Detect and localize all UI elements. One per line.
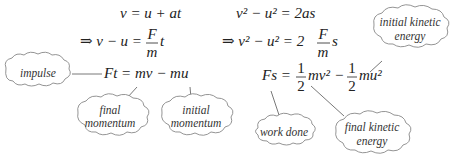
svg-text:2: 2 — [297, 78, 305, 94]
svg-text:m: m — [147, 44, 158, 60]
svg-text:final: final — [99, 104, 120, 117]
svg-text:t: t — [160, 33, 165, 49]
eq-v-minus-u: ⇒ v − u = F m t — [80, 26, 165, 60]
svg-text:final kinetic: final kinetic — [345, 121, 400, 134]
eq-impulse: Ft = mv − mu — [103, 65, 188, 81]
svg-text:energy: energy — [357, 135, 389, 148]
work-done-connector — [271, 91, 280, 118]
svg-text:initial kinetic: initial kinetic — [380, 16, 441, 28]
eq-work-energy: Fs = 1 2 mv² − 1 2 mu² — [261, 60, 382, 94]
svg-text:mu²: mu² — [359, 67, 382, 83]
svg-text:s: s — [332, 33, 338, 49]
svg-text:F: F — [146, 26, 157, 42]
svg-text:1: 1 — [297, 60, 305, 76]
svg-text:−: − — [334, 67, 344, 83]
eq-v2-u2-2as: v² − u² = 2as — [236, 5, 315, 21]
kinematics-energy-diagram: impulse final momentum initial momentum … — [0, 0, 455, 164]
final-ke-connector — [311, 86, 344, 116]
svg-text:initial: initial — [182, 104, 209, 116]
final-ke-cloud: final kinetic energy — [336, 111, 411, 154]
impulse-cloud: impulse — [5, 52, 70, 86]
svg-text:m: m — [318, 44, 329, 60]
svg-text:work done: work done — [260, 126, 308, 138]
svg-text:momentum: momentum — [85, 117, 135, 129]
initial-ke-cloud: initial kinetic energy — [374, 5, 449, 48]
svg-text:mv²: mv² — [308, 67, 330, 83]
eq-v2-u2-force: ⇒ v² − u² = 2 F m s — [222, 26, 338, 60]
svg-text:impulse: impulse — [20, 67, 56, 80]
svg-text:momentum: momentum — [171, 117, 221, 129]
final-momentum-cloud: final momentum — [78, 94, 149, 136]
svg-text:F: F — [317, 26, 328, 42]
svg-text:⇒ v − u =: ⇒ v − u = — [80, 33, 142, 49]
eq-v-u-at: v = u + at — [120, 5, 182, 21]
svg-text:energy: energy — [395, 30, 427, 43]
svg-text:2: 2 — [348, 78, 356, 94]
svg-text:Fs =: Fs = — [261, 67, 291, 83]
svg-text:1: 1 — [348, 60, 356, 76]
svg-text:⇒ v² − u² = 2: ⇒ v² − u² = 2 — [222, 33, 305, 49]
work-done-cloud: work done — [256, 113, 316, 145]
initial-momentum-cloud: initial momentum — [162, 94, 233, 136]
